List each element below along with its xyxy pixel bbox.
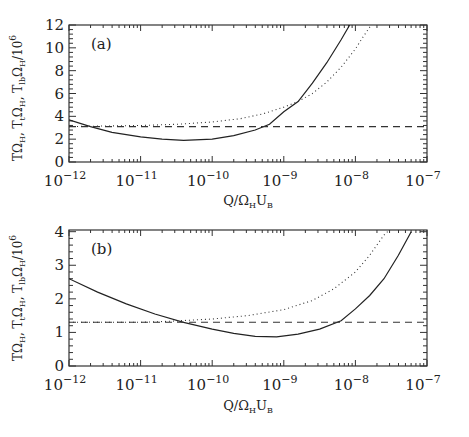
y-tick-label: 4 — [54, 107, 64, 125]
y-axis-label-part: TΩ — [11, 143, 25, 161]
y-axis-label-part: H — [18, 300, 27, 307]
x-axis-label-part: B — [267, 406, 273, 415]
plot-frame — [69, 25, 427, 162]
x-axis-label-part: B — [267, 201, 273, 210]
x-tick-label-exp: −7 — [424, 373, 440, 386]
x-axis-label-part: Q/Ω — [223, 398, 249, 413]
y-axis-label-part: H — [18, 260, 27, 267]
x-tick-label-base: 10 — [44, 172, 63, 190]
x-axis-label-part: U — [256, 398, 267, 413]
x-tick-label-base: 10 — [115, 376, 134, 394]
series-solid-line — [69, 232, 411, 337]
y-axis-label-part: , T — [11, 85, 25, 101]
panel-label: (a) — [91, 35, 112, 53]
x-tick-label: 10−9 — [262, 169, 297, 190]
x-tick-label: 10−11 — [115, 169, 157, 190]
y-axis-label-part: , T — [11, 120, 25, 136]
x-tick-label-base: 10 — [187, 376, 206, 394]
x-tick-label-base: 10 — [262, 376, 281, 394]
y-tick-label: 1 — [54, 323, 64, 341]
y-axis-label-part: H — [18, 336, 27, 343]
x-tick-label-base: 10 — [334, 172, 353, 190]
x-tick-label-base: 10 — [262, 172, 281, 190]
x-axis-label-part: H — [249, 201, 256, 210]
y-axis-label-part: /10 — [11, 41, 25, 60]
x-tick-label-exp: −10 — [206, 373, 229, 386]
x-tick-label-exp: −9 — [281, 169, 297, 182]
x-tick-label-exp: −12 — [63, 169, 86, 182]
y-axis-label-part: Ω — [11, 107, 25, 117]
y-tick-label: 2 — [54, 290, 64, 308]
y-axis-label-part: TΩ — [11, 343, 25, 361]
y-tick-label: 8 — [54, 62, 64, 80]
x-axis-label-part: U — [256, 193, 267, 208]
x-tick-label-base: 10 — [405, 172, 424, 190]
y-axis-label-part: Ω — [11, 307, 25, 317]
y-axis-label-part: Ω — [11, 267, 25, 277]
y-tick-label: 4 — [54, 223, 64, 241]
x-axis-label: Q/ΩHUB — [223, 193, 273, 210]
y-axis-label-part: /10 — [11, 241, 25, 260]
x-tick-label: 10−10 — [187, 373, 229, 394]
y-axis-label-part: lb — [18, 77, 27, 85]
y-axis-label-part: , T — [11, 320, 25, 336]
panel-label: (b) — [91, 240, 112, 258]
x-tick-label-base: 10 — [334, 376, 353, 394]
y-axis-label-part: Ω — [11, 67, 25, 77]
y-axis-label-part: H — [18, 60, 27, 67]
x-tick-label: 10−12 — [44, 169, 86, 190]
x-tick-label-exp: −12 — [63, 373, 86, 386]
y-tick-label: 12 — [45, 16, 64, 34]
series-dotted-line — [69, 232, 388, 323]
y-tick-label: 2 — [54, 130, 64, 148]
x-tick-label-base: 10 — [187, 172, 206, 190]
x-axis-label-part: H — [249, 406, 256, 415]
x-tick-label-exp: −8 — [353, 373, 369, 386]
y-tick-label: 3 — [54, 256, 64, 274]
y-tick-label: 0 — [54, 153, 64, 171]
x-tick-label-exp: −10 — [206, 169, 229, 182]
y-axis-label-part: H — [18, 136, 27, 143]
figure: 10−1210−1110−1010−910−810−7024681012(a)T… — [0, 0, 469, 437]
y-axis-label: TΩH, TtΩH, TlbΩH/106 — [8, 35, 27, 161]
x-axis-label-part: Q/Ω — [223, 193, 249, 208]
y-axis-label-part: 6 — [8, 35, 18, 41]
x-tick-label: 10−9 — [262, 373, 297, 394]
y-tick-label: 6 — [54, 85, 64, 103]
y-tick-label: 0 — [54, 357, 64, 375]
x-tick-label-exp: −8 — [353, 169, 369, 182]
y-axis-label-part: , T — [11, 285, 25, 301]
x-tick-label: 10−10 — [187, 169, 229, 190]
x-tick-label: 10−11 — [115, 373, 157, 394]
y-axis-label-part: 6 — [8, 235, 18, 241]
x-tick-label-base: 10 — [405, 376, 424, 394]
series-dotted-line — [69, 25, 371, 127]
x-tick-label-exp: −11 — [135, 373, 158, 386]
x-tick-label: 10−12 — [44, 373, 86, 394]
y-axis-label-part: lb — [18, 277, 27, 285]
x-tick-label: 10−8 — [334, 169, 369, 190]
x-tick-label-base: 10 — [115, 172, 134, 190]
y-axis-label-part: H — [18, 100, 27, 107]
x-tick-label: 10−7 — [405, 169, 440, 190]
plot-frame — [69, 230, 427, 366]
x-tick-label-exp: −9 — [281, 373, 297, 386]
x-axis-label: Q/ΩHUB — [223, 398, 273, 415]
y-tick-label: 10 — [45, 39, 64, 57]
x-tick-label-exp: −11 — [135, 169, 158, 182]
x-tick-label-exp: −7 — [424, 169, 440, 182]
panel-a: 10−1210−1110−1010−910−810−7024681012(a)T… — [8, 16, 441, 210]
x-tick-label: 10−8 — [334, 373, 369, 394]
y-axis-label: TΩH, TtΩH, TlbΩH/106 — [8, 235, 27, 361]
x-tick-label-base: 10 — [44, 376, 63, 394]
panel-b: 10−1210−1110−1010−910−810−701234(b)TΩH, … — [8, 223, 441, 415]
x-tick-label: 10−7 — [405, 373, 440, 394]
